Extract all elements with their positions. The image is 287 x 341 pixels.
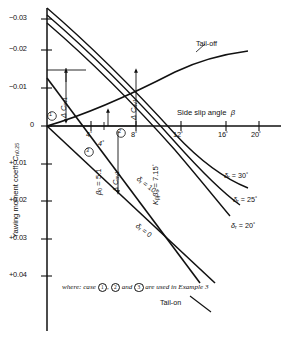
footnote-case-3: 3 [134,283,143,292]
x-tick-label-4: 20° [251,131,261,138]
x-tick-label-0: 4° [86,131,92,138]
y-axis-subscript: n0.25 [14,143,20,156]
curve-delta-r-20 [47,23,230,216]
footnote-post: are used in Example 3 [144,283,209,291]
x-axis-title-text: Side slip angle [177,108,226,117]
tail-on-label: Tail-on [160,299,181,306]
delta-r-30-label: δr = 30° [224,172,248,180]
x-tick-label-2: 12° [173,131,183,138]
delta-r-20-label: δr = 20° [231,222,255,230]
chart-figure: Yawing moment coeff. Cn0.25 −0.03 −0.02 … [0,0,287,341]
footnote: where: case 1, 2 and 3 are used in Examp… [62,283,208,292]
leader-tail-on [190,296,211,312]
delta-cnv1-label-case2: Δ Cnv1 [130,99,138,120]
x-tick-label-1: 8° [131,131,137,138]
footnote-case-2: 2 [111,283,120,292]
y-tick-label-0: −0.03 [9,14,27,21]
y-tick-label-4: +0.01 [9,159,27,166]
footnote-mid: , [107,283,111,291]
delta-cnv1-label-case1: Δ Cnv1 [60,97,68,118]
curve-delta-r-30 [47,8,248,188]
case-2-marker-text: 2 [118,129,121,134]
k-beta-beta0-label: Kββo = 7.15° [152,164,160,205]
delta-r-25-label: δr = 25° [233,196,257,204]
y-tick-label-5: +0.02 [9,196,27,203]
tail-off-label: Tail-off [196,40,217,47]
beta-0-label: β0 = 5.1 [95,169,103,195]
footnote-pre: where: case [62,283,98,291]
y-tick-label-7: +0.04 [9,271,27,278]
x-axis-symbol: β [231,108,235,117]
angle-4deg-label: 4° [98,140,104,147]
y-tick-label-3: 0 [30,121,34,128]
delta-cnv1-label-case3: Δ Cnv1 [112,171,120,192]
case-3-marker-text: 3 [86,148,89,153]
y-tick-label-2: −0.01 [9,83,27,90]
footnote-case-1: 1 [98,283,107,292]
y-tick-label-1: −0.02 [9,45,27,52]
x-tick-label-3: 16° [218,131,228,138]
case-1-marker-text: 1 [49,112,52,117]
footnote-and: and [120,283,134,291]
y-tick-label-6: +0.03 [9,234,27,241]
x-axis-title: Side slip angle β [177,109,235,117]
